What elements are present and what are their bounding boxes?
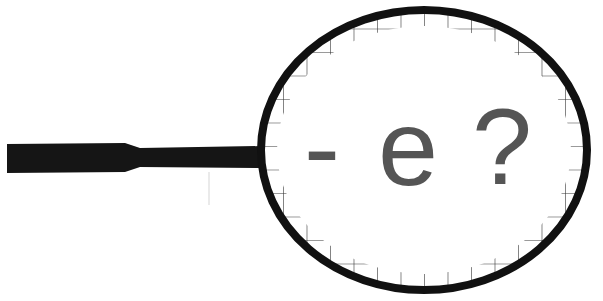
letter-e-glyph: e (378, 87, 438, 208)
handle (7, 143, 262, 205)
question-mark-glyph: ? (472, 86, 532, 207)
dash-glyph: - (304, 86, 340, 207)
magnifying-glass-illustration: - e ? (0, 0, 603, 301)
